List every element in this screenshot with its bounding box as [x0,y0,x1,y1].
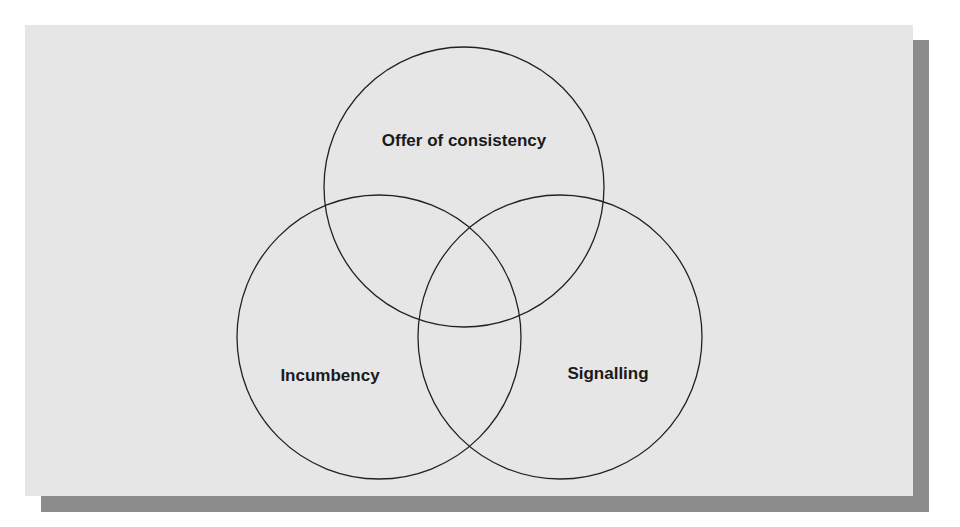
circle-incumbency [237,195,521,479]
venn-diagram: Offer of consistency Incumbency Signalli… [0,0,960,527]
circle-offer-of-consistency [324,47,604,327]
label-incumbency: Incumbency [280,366,380,385]
label-signalling: Signalling [567,364,648,383]
circle-signalling [418,195,702,479]
label-offer-of-consistency: Offer of consistency [382,131,547,150]
